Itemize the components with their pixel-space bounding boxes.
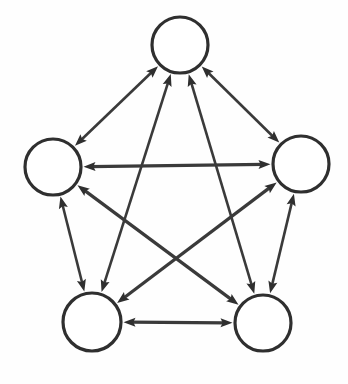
- graph-node-bottom-left[interactable]: [63, 293, 121, 351]
- graph-diagram-canvas: [0, 0, 348, 384]
- graph-node-bottom-right[interactable]: [235, 295, 291, 351]
- node-circle[interactable]: [235, 295, 291, 351]
- node-circle[interactable]: [152, 17, 208, 73]
- edge-shaft: [90, 164, 264, 166]
- node-circle[interactable]: [25, 139, 81, 195]
- graph-node-top[interactable]: [152, 17, 208, 73]
- graph-node-left[interactable]: [25, 139, 81, 195]
- graph-svg: [0, 0, 348, 384]
- node-circle[interactable]: [273, 136, 329, 192]
- graph-node-right[interactable]: [273, 136, 329, 192]
- edge-shaft: [130, 322, 226, 323]
- node-circle[interactable]: [63, 293, 121, 351]
